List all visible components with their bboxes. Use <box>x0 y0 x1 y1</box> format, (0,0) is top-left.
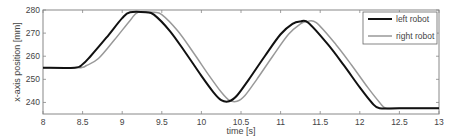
x-axis-label: time [s] <box>226 126 255 136</box>
y-tick-label: 280 <box>26 5 40 15</box>
y-tick-label: 240 <box>26 97 40 107</box>
legend: left robot right robot <box>363 12 437 44</box>
x-tick-label: 11 <box>276 117 285 127</box>
x-tick-label: 10 <box>197 117 207 127</box>
legend-label-right-robot: right robot <box>396 31 435 41</box>
x-tick-label: 13 <box>434 117 444 127</box>
legend-label-left-robot: left robot <box>396 14 430 24</box>
x-tick-label: 8.5 <box>77 117 89 127</box>
x-tick-label: 8 <box>41 117 46 127</box>
x-tick-label: 9 <box>120 117 125 127</box>
y-tick-label: 260 <box>26 51 40 61</box>
x-tick-label: 12.5 <box>391 117 408 127</box>
line-chart: 88.599.51010.51111.51212.513 24025026027… <box>0 0 459 140</box>
y-tick-label: 250 <box>26 74 40 84</box>
y-tick-label: 270 <box>26 28 40 38</box>
y-axis-label: x-axis position [mm] <box>12 22 22 102</box>
x-tick-label: 12 <box>355 117 365 127</box>
x-tick-label: 9.5 <box>156 117 168 127</box>
x-tick-label: 11.5 <box>312 117 328 127</box>
